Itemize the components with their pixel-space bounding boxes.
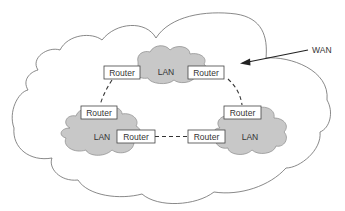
router-top-left: Router (104, 66, 140, 79)
router-label: Router (86, 108, 112, 118)
router-label: Router (193, 68, 219, 78)
lan-label-right: LAN (242, 132, 259, 142)
wan-cloud (12, 13, 330, 204)
router-label: Router (123, 132, 149, 142)
router-right-top: Router (224, 106, 261, 119)
router-label: Router (194, 132, 220, 142)
router-top-right: Router (188, 66, 224, 79)
lan-label-left: LAN (94, 132, 111, 142)
wan-label: WAN (312, 45, 332, 55)
router-left-right: Router (117, 130, 155, 143)
router-left-top: Router (81, 106, 117, 119)
router-label: Router (109, 68, 135, 78)
lan-label-top: LAN (158, 67, 175, 77)
router-right-left: Router (188, 130, 225, 143)
router-label: Router (230, 108, 256, 118)
network-diagram: Router Router Router Router Router Route… (0, 0, 345, 211)
